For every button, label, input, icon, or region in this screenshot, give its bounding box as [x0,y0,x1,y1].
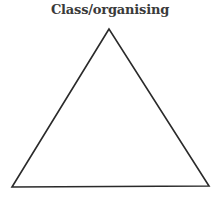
triangle-shape [12,29,209,187]
triangle-diagram [0,0,220,201]
